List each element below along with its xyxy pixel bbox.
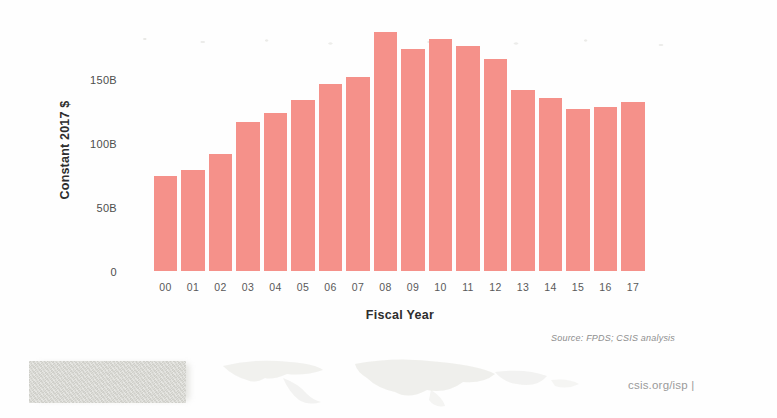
x-tick-label-fy11: 11 <box>454 281 482 293</box>
y-tick-label-50B: 50B <box>62 202 117 214</box>
y-tick-label-0: 0 <box>62 266 117 278</box>
footer-gray-block <box>29 361 186 403</box>
x-tick-label-fy06: 06 <box>317 281 345 293</box>
x-tick-label-fy05: 05 <box>289 281 317 293</box>
bar-fy11 <box>456 46 480 271</box>
bar-fy04 <box>264 113 288 271</box>
x-tick-label-fy14: 14 <box>537 281 565 293</box>
bar-fy14 <box>539 98 563 271</box>
x-tick-label-fy02: 02 <box>207 281 235 293</box>
bar-fy02 <box>209 154 233 271</box>
x-tick-label-fy13: 13 <box>509 281 537 293</box>
x-tick-label-fy01: 01 <box>179 281 207 293</box>
bar-fy00 <box>154 176 178 271</box>
x-tick-label-fy04: 04 <box>262 281 290 293</box>
bar-fy03 <box>236 122 260 271</box>
y-tick-label-150B: 150B <box>62 74 117 86</box>
bar-fy10 <box>429 39 453 271</box>
footer-url: csis.org/isp | <box>628 379 748 391</box>
bar-fy13 <box>511 90 535 271</box>
source-note: Source: FPDS; CSIS analysis <box>495 333 675 343</box>
bar-fy15 <box>566 109 590 271</box>
bar-fy05 <box>291 100 315 271</box>
x-tick-label-fy10: 10 <box>427 281 455 293</box>
x-tick-label-fy16: 16 <box>592 281 620 293</box>
x-axis-title: Fiscal Year <box>336 308 464 322</box>
x-tick-label-fy09: 09 <box>399 281 427 293</box>
bar-fy17 <box>621 102 645 271</box>
bar-fy01 <box>181 170 205 271</box>
figure-page: Constant 2017 $ 050B100B150B 00010203040… <box>0 0 777 418</box>
x-tick-label-fy00: 00 <box>152 281 180 293</box>
x-tick-label-fy12: 12 <box>482 281 510 293</box>
x-tick-label-fy17: 17 <box>619 281 647 293</box>
bar-fy08 <box>374 32 398 271</box>
x-tick-label-fy15: 15 <box>564 281 592 293</box>
world-map-watermark <box>195 354 615 412</box>
bar-fy12 <box>484 59 508 271</box>
y-tick-label-100B: 100B <box>62 138 117 150</box>
bar-fy09 <box>401 49 425 271</box>
bar-fy16 <box>594 107 618 271</box>
x-tick-label-fy08: 08 <box>372 281 400 293</box>
bar-fy06 <box>319 84 343 271</box>
bar-fy07 <box>346 77 370 271</box>
x-tick-label-fy07: 07 <box>344 281 372 293</box>
x-tick-label-fy03: 03 <box>234 281 262 293</box>
